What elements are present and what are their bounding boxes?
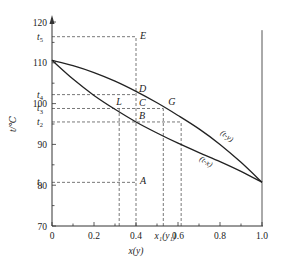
subscript: 5 bbox=[40, 36, 43, 43]
phase-diagram-chart: 00.20.40.60.81.0x₁(y₁)708090100110120t5t… bbox=[0, 0, 284, 276]
y-special-tick-label-t1: t1 bbox=[37, 177, 43, 189]
y-special-tick-label-t2: t2 bbox=[37, 117, 43, 128]
curve-label-t-y: (t-y) bbox=[219, 128, 236, 144]
y-tick-label: 120 bbox=[33, 18, 48, 28]
point-labels: (t-y)(t-x)EDCBALG bbox=[115, 30, 235, 187]
x-tick-label: 0.4 bbox=[130, 231, 142, 241]
y-axis-arrow-icon bbox=[50, 15, 55, 24]
y-axis-title: t/℃ bbox=[8, 116, 18, 132]
y-tick-label: 70 bbox=[38, 222, 48, 232]
curves bbox=[52, 60, 262, 182]
x-tick-label: 1.0 bbox=[256, 231, 268, 241]
point-label-B: B bbox=[139, 110, 145, 121]
x-tick-label: 0 bbox=[50, 231, 55, 241]
subscript: 3 bbox=[40, 108, 43, 115]
curve-label-t-x: (t-x) bbox=[198, 154, 215, 169]
y-special-tick-label-t4: t4 bbox=[37, 90, 44, 102]
y-special-tick-label-t5: t5 bbox=[37, 32, 43, 44]
curve-t-x bbox=[52, 60, 262, 182]
chart-svg: 00.20.40.60.81.0x₁(y₁)708090100110120t5t… bbox=[0, 0, 284, 276]
x-tick-label: 0.2 bbox=[88, 231, 100, 241]
subscript: 2 bbox=[40, 121, 43, 128]
point-label-A: A bbox=[139, 175, 147, 186]
y-tick-label: 90 bbox=[38, 140, 48, 150]
point-label-G: G bbox=[168, 96, 175, 107]
point-label-D: D bbox=[138, 83, 147, 94]
x1-y1-tick-label: x₁(y₁) bbox=[154, 231, 176, 242]
x-tick-label: 0.8 bbox=[214, 231, 226, 241]
point-label-E: E bbox=[139, 30, 146, 41]
curve-t-y bbox=[52, 60, 262, 182]
y-tick-label: 110 bbox=[33, 58, 47, 68]
x-axis-title: x(y) bbox=[128, 246, 144, 257]
point-label-L: L bbox=[115, 96, 122, 107]
point-label-C: C bbox=[139, 97, 146, 108]
subscript: 1 bbox=[40, 182, 43, 189]
